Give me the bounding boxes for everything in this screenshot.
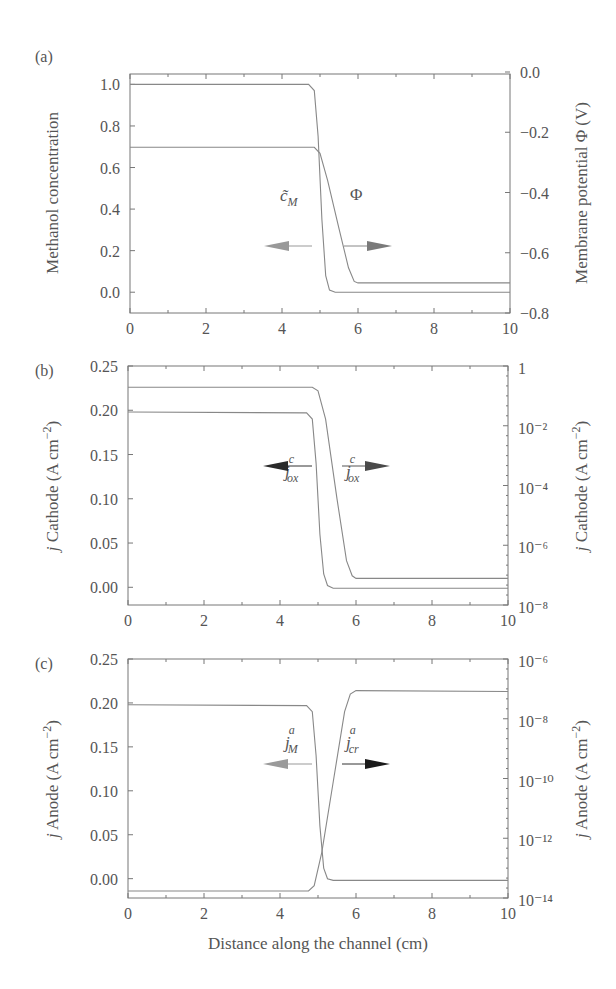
- panel-a-label: (a): [35, 48, 53, 66]
- data-curve: [128, 387, 508, 578]
- x-tick-label: 10: [500, 905, 516, 922]
- y-tick-label: 0.20: [90, 695, 118, 712]
- right-y-tick-label: 10⁻¹²: [518, 832, 552, 849]
- arrow-left-j-ox-c: [263, 461, 312, 471]
- y-tick-label: 0.10: [90, 491, 118, 508]
- y-tick-label: 0.05: [90, 827, 118, 844]
- x-tick-label: 0: [126, 320, 134, 337]
- x-tick-label: 8: [428, 612, 436, 629]
- right-y-tick-label: 10⁻⁶: [518, 539, 548, 556]
- x-tick-label: 0: [124, 905, 132, 922]
- y-tick-label: 0.00: [90, 579, 118, 596]
- panel-b-curves: [128, 387, 508, 588]
- y-tick-label: 0.20: [90, 402, 118, 419]
- y-tick-label: 1.0: [100, 76, 120, 93]
- figure: (a) 02468100.00.20.40.60.81.00.0−0.2−0.4…: [0, 0, 616, 989]
- right-y-tick-label: 10⁻²: [518, 420, 547, 437]
- y-tick-label: 0.00: [90, 871, 118, 888]
- x-tick-label: 10: [500, 612, 516, 629]
- annotation-j-ox-c-right: jcox: [344, 452, 360, 485]
- x-tick-label: 6: [352, 612, 360, 629]
- x-tick-label: 8: [428, 905, 436, 922]
- panel-b-label: (b): [35, 362, 54, 380]
- x-tick-label: 10: [502, 320, 518, 337]
- right-y-tick-label: 10⁻⁸: [518, 599, 548, 616]
- panel-a-curves: [130, 84, 510, 292]
- arrow-right-j-cr-a: [342, 759, 390, 769]
- arrow-left-j-m-a: [263, 759, 312, 769]
- right-y-tick-label: 10⁻⁸: [518, 713, 548, 730]
- y-tick-label: 0.8: [100, 118, 120, 135]
- y-tick-label: 0.6: [100, 160, 120, 177]
- panel-c-y-axis-title: j Anode (A cm−2): [40, 720, 62, 840]
- panel-a-annotation-c-m: c̃M: [280, 186, 299, 209]
- right-y-tick-label: −0.4: [520, 185, 549, 202]
- panel-b-right-axis-title: j Cathode (A cm−2): [569, 421, 591, 553]
- panel-a-y-axis-title: Methanol concentration: [43, 112, 62, 274]
- data-curve: [128, 705, 508, 881]
- right-y-tick-label: 10⁻¹⁰: [518, 773, 554, 790]
- right-y-tick-label: 10⁻⁶: [518, 653, 548, 670]
- arrow-left-c-m: [264, 241, 312, 251]
- right-y-tick-label: 0.0: [520, 64, 540, 81]
- right-y-tick-label: 10⁻⁴: [518, 480, 548, 497]
- x-tick-label: 0: [124, 612, 132, 629]
- panel-c-curves: [128, 691, 508, 891]
- x-axis-title: Distance along the channel (cm): [208, 934, 428, 953]
- x-tick-label: 4: [276, 905, 284, 922]
- panel-c-label: (c): [35, 655, 53, 673]
- right-y-tick-label: 10⁻¹⁴: [518, 892, 553, 909]
- annotation-j-cr-a: jacr: [344, 723, 359, 756]
- x-tick-label: 2: [202, 320, 210, 337]
- y-tick-label: 0.2: [100, 243, 120, 260]
- panel-a-right-axis-title: Membrane potential Φ (V): [572, 102, 591, 284]
- arrow-right-phi: [344, 241, 392, 251]
- right-y-tick-label: −0.8: [520, 305, 549, 322]
- y-tick-label: 0.15: [90, 447, 118, 464]
- panel-b-plot-frame: [128, 366, 508, 605]
- panel-c: (c) 02468100.000.050.100.150.200.2510⁻⁶1…: [35, 651, 591, 953]
- panel-c-plot-frame: [128, 659, 508, 898]
- panel-a-ticks: 02468100.00.20.40.60.81.00.0−0.2−0.4−0.6…: [100, 64, 549, 337]
- x-tick-label: 8: [430, 320, 438, 337]
- y-tick-label: 0.4: [100, 201, 120, 218]
- panel-c-right-axis-title: j Anode (A cm−2): [569, 720, 591, 840]
- panel-b: (b) 02468100.000.050.100.150.200.25110⁻²…: [35, 358, 591, 629]
- panel-a: (a) 02468100.00.20.40.60.81.00.0−0.2−0.4…: [35, 48, 591, 337]
- data-curve: [128, 412, 508, 588]
- x-tick-label: 4: [276, 612, 284, 629]
- annotation-j-m-a: jaM: [283, 723, 299, 756]
- data-curve: [130, 84, 510, 292]
- x-tick-label: 2: [200, 612, 208, 629]
- x-tick-label: 6: [352, 905, 360, 922]
- x-tick-label: 2: [200, 905, 208, 922]
- panel-a-plot-frame: [130, 74, 510, 313]
- y-tick-label: 0.0: [100, 284, 120, 301]
- y-tick-label: 0.05: [90, 535, 118, 552]
- annotation-c-m: c̃M: [280, 186, 299, 209]
- panel-b-y-axis-title: j Cathode (A cm−2): [40, 421, 62, 553]
- y-tick-label: 0.25: [90, 358, 118, 375]
- x-tick-label: 6: [354, 320, 362, 337]
- y-tick-label: 0.10: [90, 783, 118, 800]
- right-y-tick-label: 1: [518, 360, 526, 377]
- right-y-tick-label: −0.6: [520, 245, 549, 262]
- annotation-phi: Φ: [350, 185, 362, 204]
- right-y-tick-label: −0.2: [520, 124, 549, 141]
- y-tick-label: 0.15: [90, 739, 118, 756]
- x-tick-label: 4: [278, 320, 286, 337]
- y-tick-label: 0.25: [90, 651, 118, 668]
